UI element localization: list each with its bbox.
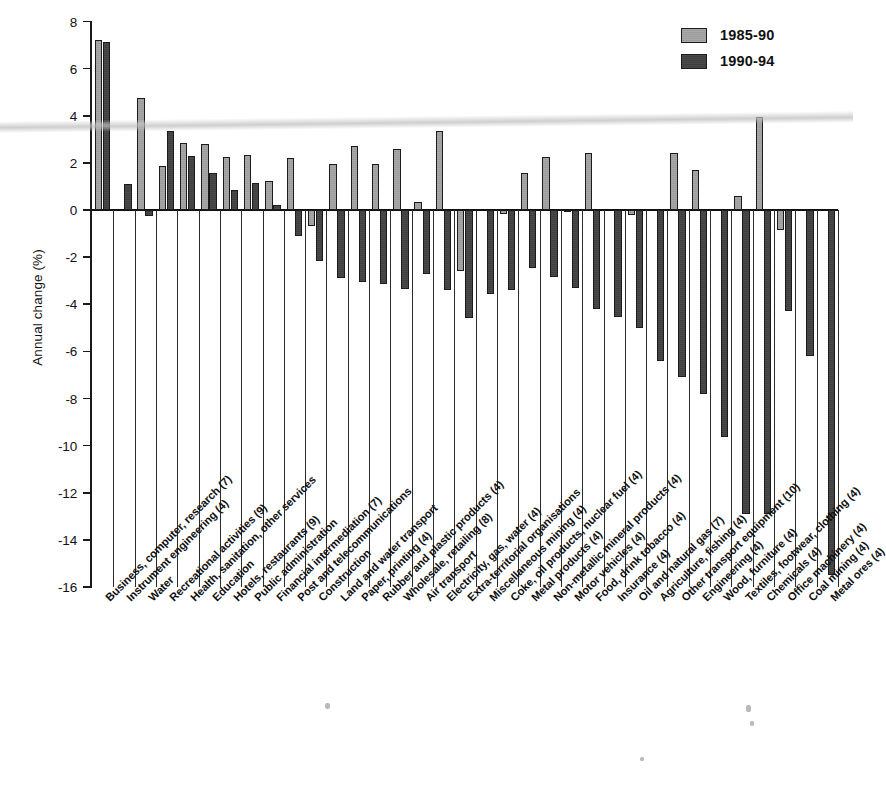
bar-1985-90 [457, 210, 464, 271]
bar-1985-90 [223, 157, 230, 210]
bar-1985-90 [393, 149, 400, 210]
bar-1990-94 [465, 210, 472, 318]
bar-1990-94 [657, 210, 664, 361]
bar-1990-94 [636, 210, 643, 328]
bar-1990-94 [188, 156, 195, 210]
bar-1990-94 [572, 210, 579, 288]
bar-1990-94 [380, 210, 387, 284]
bar-1985-90 [287, 158, 294, 210]
bar-1990-94 [721, 210, 728, 437]
bar-1985-90 [95, 40, 102, 210]
bar-1990-94 [764, 210, 771, 514]
bar-1990-94 [103, 42, 110, 210]
scan-speck [750, 721, 754, 726]
bar-1985-90 [542, 157, 549, 210]
legend-swatch-icon [681, 28, 707, 43]
bar-1990-94 [209, 173, 216, 210]
bar-1990-94 [614, 210, 621, 317]
category-gridline [497, 210, 498, 587]
legend-swatch-icon [681, 54, 707, 69]
category-gridline [774, 210, 775, 587]
scan-speck [325, 703, 330, 709]
bar-1990-94 [593, 210, 600, 309]
scan-speck [640, 757, 644, 761]
bar-1990-94 [700, 210, 707, 394]
bar-1990-94 [295, 210, 302, 236]
legend-item: 1985-90 [681, 22, 775, 48]
category-gridline [646, 210, 647, 587]
chart-legend: 1985-901990-94 [681, 22, 775, 74]
bar-1985-90 [201, 144, 208, 210]
bar-1990-94 [508, 210, 515, 290]
bar-1985-90 [180, 143, 187, 210]
bar-1990-94 [337, 210, 344, 278]
bar-1985-90 [670, 153, 677, 210]
bar-1985-90 [414, 202, 421, 210]
bar-1990-94 [806, 210, 813, 356]
bar-1990-94 [252, 183, 259, 210]
bar-1985-90 [244, 155, 251, 210]
bar-1990-94 [231, 190, 238, 210]
bar-1990-94 [529, 210, 536, 268]
bar-1985-90 [777, 210, 784, 230]
bar-1985-90 [628, 210, 635, 215]
category-gridline [135, 210, 136, 587]
bar-1990-94 [124, 184, 131, 210]
bar-1990-94 [167, 131, 174, 210]
bar-1985-90 [756, 117, 763, 210]
bar-1985-90 [308, 210, 315, 226]
bar-1990-94 [742, 210, 749, 514]
legend-item: 1990-94 [681, 48, 775, 74]
bar-1985-90 [329, 164, 336, 210]
bar-1985-90 [500, 210, 507, 214]
category-gridline [689, 210, 690, 587]
bar-1985-90 [585, 153, 592, 210]
bar-1985-90 [159, 166, 166, 210]
bar-1985-90 [436, 131, 443, 210]
bar-1985-90 [265, 181, 272, 210]
bar-1990-94 [444, 210, 451, 290]
bar-1990-94 [785, 210, 792, 311]
bar-1990-94 [273, 205, 280, 210]
category-gridline [390, 210, 391, 587]
category-gridline [604, 210, 605, 587]
category-gridline [156, 210, 157, 587]
category-gridline [838, 210, 839, 587]
category-gridline [433, 210, 434, 587]
bar-1985-90 [372, 164, 379, 210]
category-gridline [113, 210, 114, 587]
legend-label: 1985-90 [720, 27, 775, 43]
bar-1990-94 [487, 210, 494, 294]
bar-1990-94 [359, 210, 366, 282]
bar-1990-94 [678, 210, 685, 377]
bar-1990-94 [550, 210, 557, 277]
bar-1985-90 [692, 170, 699, 210]
category-gridline [220, 210, 221, 587]
bar-1990-94 [401, 210, 408, 289]
legend-label: 1990-94 [720, 53, 775, 69]
bar-1990-94 [145, 210, 152, 216]
bar-1990-94 [316, 210, 323, 261]
category-gridline [284, 210, 285, 587]
bar-1985-90 [521, 173, 528, 210]
bar-1985-90 [351, 146, 358, 210]
scan-speck [746, 705, 751, 712]
bar-1985-90 [137, 98, 144, 210]
bar-1985-90 [734, 196, 741, 210]
bar-1985-90 [564, 210, 571, 212]
bar-1990-94 [423, 210, 430, 274]
